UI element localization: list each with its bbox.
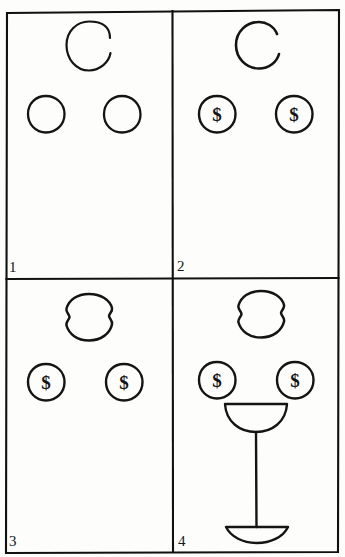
dollar-sign-icon: $: [212, 104, 222, 125]
dollar-sign-icon: $: [41, 372, 51, 393]
panel-number-3: 3: [9, 533, 17, 549]
sketch-canvas: 1 $ $ 2 $: [0, 0, 345, 557]
vertical-divider: [173, 11, 174, 552]
dollar-sign-icon: $: [289, 104, 299, 125]
panel-number-4: 4: [178, 533, 186, 549]
horizontal-divider: [7, 278, 339, 279]
dollar-sign-icon: $: [212, 370, 222, 391]
drawing-sheet: 1 $ $ 2 $: [0, 0, 345, 557]
panel-number-2: 2: [177, 258, 185, 274]
dollar-sign-icon: $: [290, 370, 300, 391]
panel-number-1: 1: [9, 259, 17, 275]
dollar-sign-icon: $: [119, 372, 129, 393]
glass-stem: [256, 432, 257, 527]
